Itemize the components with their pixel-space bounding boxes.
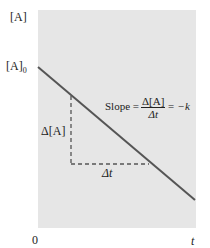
y-intercept-text: [A] bbox=[6, 59, 23, 73]
slope-annotation: Slope =Δ[A]Δt= −k bbox=[105, 95, 190, 120]
slope-suffix: = −k bbox=[167, 100, 189, 112]
y-intercept-label: [A]0 bbox=[6, 59, 27, 75]
slope-denominator: Δt bbox=[148, 108, 158, 120]
delta-a-label: Δ[A] bbox=[41, 124, 65, 139]
delta-t-label: Δt bbox=[102, 166, 112, 181]
graph-lines bbox=[0, 0, 210, 248]
slope-fraction: Δ[A]Δt bbox=[141, 95, 165, 120]
x-origin-label: 0 bbox=[32, 233, 38, 248]
y-axis-label: [A] bbox=[10, 10, 27, 25]
y-intercept-subscript: 0 bbox=[23, 66, 27, 75]
slope-numerator: Δ[A] bbox=[141, 95, 165, 108]
x-axis-label: t bbox=[191, 234, 194, 248]
slope-prefix: Slope = bbox=[105, 100, 139, 112]
